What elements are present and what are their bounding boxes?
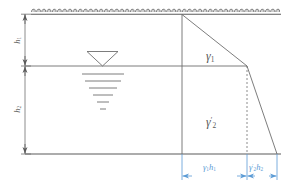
left-dimension-line (21, 14, 31, 154)
earth-pressure-diagram (0, 0, 283, 186)
water-table-symbol (82, 52, 124, 110)
ground-surface (31, 8, 281, 14)
label-gamma1: γ1 (206, 50, 214, 62)
label-gamma2-sub: 2 (212, 121, 216, 130)
label-gamma2-prime: γ′2 (206, 116, 216, 128)
pressure-diagram (182, 14, 277, 154)
label-pressure-upper-h-sub: 1 (213, 166, 216, 172)
label-h1-text: h (12, 39, 22, 43)
label-h1-sub: 1 (16, 37, 22, 40)
label-h2: h2 (13, 99, 22, 119)
label-pressure-lower-gamma-sub: 2 (254, 166, 257, 172)
label-pressure-lower-h-sub: 2 (260, 166, 263, 172)
label-pressure-upper: γ1h1 (203, 163, 216, 172)
label-pressure-lower: γ′2h2 (249, 163, 263, 172)
label-gamma1-sub: 1 (211, 55, 215, 64)
label-pressure-upper-gamma-sub: 1 (206, 166, 209, 172)
label-h2-text: h (12, 108, 22, 112)
label-h2-sub: 2 (16, 106, 22, 109)
label-h1: h1 (13, 30, 22, 50)
